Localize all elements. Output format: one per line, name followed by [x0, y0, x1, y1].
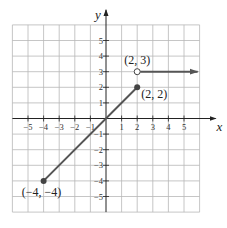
x-tick-label: 4: [166, 122, 171, 132]
x-tick-label: 2: [135, 122, 139, 132]
x-tick-label: −2: [70, 122, 79, 132]
open-point: [134, 69, 140, 75]
x-tick-label: −5: [23, 122, 32, 132]
point-label: (−4, −4): [22, 185, 62, 199]
x-tick-label: 1: [119, 122, 123, 132]
x-tick-label: 5: [182, 122, 186, 132]
point-label: (2, 3): [124, 53, 150, 67]
closed-point: [41, 178, 47, 184]
y-axis-label: y: [93, 7, 101, 22]
y-tick-label: 2: [99, 82, 103, 92]
piecewise-graph: −5−4−3−2−11234554321−1−2−3−4−5 xy(2, 3)(…: [0, 0, 227, 228]
x-tick-label: 3: [151, 122, 155, 132]
y-tick-label: 3: [99, 67, 103, 77]
x-tick-label: −3: [55, 122, 64, 132]
y-tick-label: −5: [94, 192, 103, 202]
x-axis-label: x: [216, 119, 223, 134]
y-tick-label: −4: [94, 176, 104, 186]
closed-point: [134, 84, 140, 90]
y-tick-label: 1: [99, 98, 103, 108]
y-tick-label: 5: [99, 36, 103, 46]
x-tick-label: −4: [39, 122, 49, 132]
y-tick-label: −2: [94, 145, 103, 155]
point-label: (2, 2): [141, 87, 167, 101]
y-tick-label: −3: [94, 160, 103, 170]
